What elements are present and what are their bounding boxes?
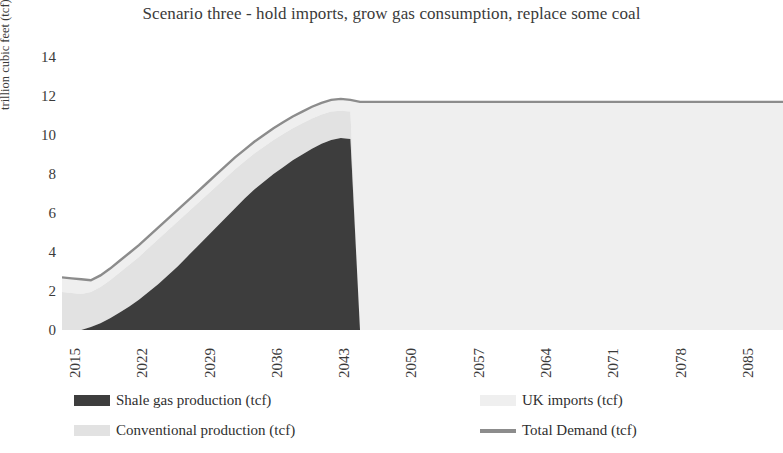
x-axis-tick: 2015 xyxy=(68,348,83,378)
series-layers xyxy=(62,99,783,330)
legend-item[interactable]: Conventional production (tcf) xyxy=(74,422,295,439)
legend-label: UK imports (tcf) xyxy=(522,392,623,409)
plot-area xyxy=(62,57,783,330)
legend-swatch-box xyxy=(74,425,110,436)
x-axis-tick: 2022 xyxy=(135,348,150,378)
legend-item[interactable]: Shale gas production (tcf) xyxy=(74,392,271,409)
legend-item[interactable]: UK imports (tcf) xyxy=(480,392,623,409)
legend-swatch-box xyxy=(480,395,516,406)
x-axis-tick: 2071 xyxy=(606,348,621,378)
legend-label: Shale gas production (tcf) xyxy=(116,392,271,409)
x-axis-tick: 2043 xyxy=(337,348,352,378)
legend-label: Total Demand (tcf) xyxy=(522,422,637,439)
legend-item[interactable]: Total Demand (tcf) xyxy=(480,422,637,439)
x-axis-tick: 2085 xyxy=(741,348,756,378)
chart-legend: Shale gas production (tcf)Conventional p… xyxy=(0,388,783,452)
x-axis-tick: 2078 xyxy=(674,348,689,378)
x-axis-tick: 2050 xyxy=(404,348,419,378)
x-axis-tick: 2057 xyxy=(472,348,487,378)
x-axis-tick: 2029 xyxy=(203,348,218,378)
area-chart-svg xyxy=(62,57,783,330)
x-axis-tick: 2036 xyxy=(270,348,285,378)
x-axis-tick: 2064 xyxy=(539,348,554,378)
legend-swatch-box xyxy=(74,395,110,406)
legend-swatch-line xyxy=(480,429,516,433)
chart-container: Scenario three - hold imports, grow gas … xyxy=(0,0,783,453)
legend-label: Conventional production (tcf) xyxy=(116,422,295,439)
